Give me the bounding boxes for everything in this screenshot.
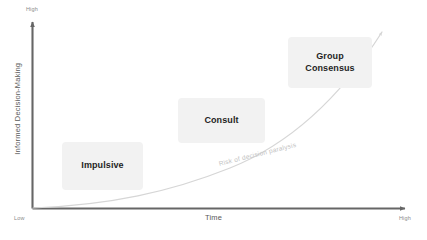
y-axis-high-label: High — [26, 7, 38, 13]
category-box-group-consensus-label: Group Consensus — [305, 51, 354, 74]
category-box-consult: Consult — [178, 98, 265, 143]
category-box-group-consensus-line1: Group — [316, 51, 344, 61]
category-box-group-consensus: Group Consensus — [288, 37, 372, 88]
y-axis-title: Informed Decision-Making — [14, 39, 22, 179]
category-box-impulsive: Impulsive — [62, 142, 143, 190]
category-box-impulsive-label: Impulsive — [81, 160, 123, 171]
decision-making-quadrant-chart: High Low High Informed Decision-Making T… — [0, 0, 427, 240]
category-box-consult-label: Consult — [204, 115, 238, 126]
x-axis-title: Time — [0, 214, 427, 222]
category-box-group-consensus-line2: Consensus — [305, 63, 354, 73]
